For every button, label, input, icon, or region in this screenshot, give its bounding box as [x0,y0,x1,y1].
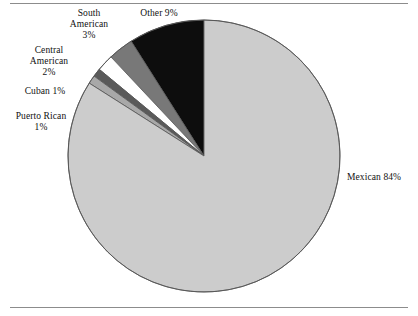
slice-label-cuban-line1: Cuban 1% [14,86,76,97]
slice-label-central-american: Central American 2% [20,45,78,79]
slice-label-cuban: Cuban 1% [14,86,76,97]
slice-label-mexican: Mexican 84% [347,172,417,183]
slice-label-south-american-value: 3% [60,30,118,41]
slice-label-south-american-line2: American [60,19,118,30]
slice-label-other: Other 9% [131,8,187,19]
slice-label-south-american-line1: South [60,8,118,19]
pie-chart-figure: South American 3% Other 9% Central Ameri… [0,0,418,316]
slice-label-other-line1: Other 9% [131,8,187,19]
slice-label-puerto-rican: Puerto Rican 1% [4,111,78,133]
slice-label-south-american: South American 3% [60,8,118,42]
slice-label-central-american-line1: Central [20,45,78,56]
slice-label-central-american-value: 2% [20,67,78,78]
slice-label-puerto-rican-value: 1% [4,122,78,133]
chart-area: South American 3% Other 9% Central Ameri… [0,0,418,316]
slice-label-puerto-rican-line1: Puerto Rican [4,111,78,122]
slice-label-central-american-line2: American [20,56,78,67]
slice-label-mexican-line1: Mexican 84% [347,172,417,183]
